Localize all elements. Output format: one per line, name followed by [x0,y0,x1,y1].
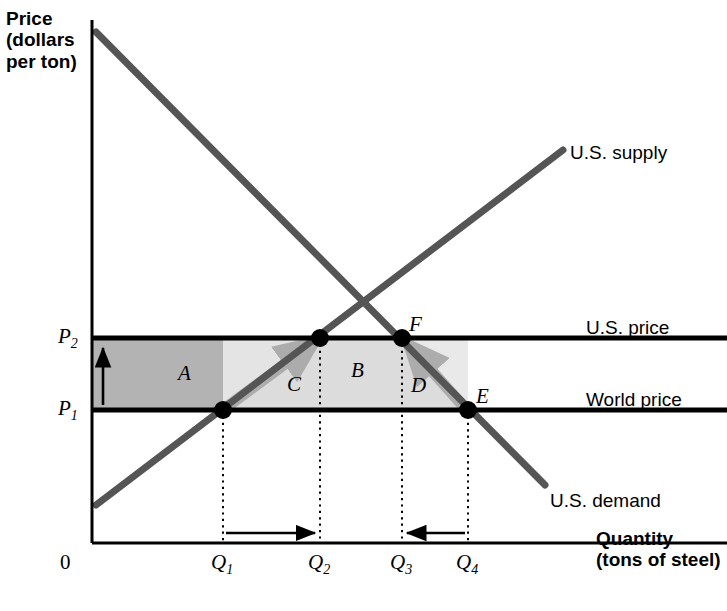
tariff-diagram: Price (dollars per ton) Quantity (tons o… [0,0,727,611]
origin-label: 0 [60,551,71,575]
price-label-p1-sub: 1 [71,408,78,423]
price-label-p1-text: P [58,396,71,420]
quantity-label-q4-sub: 4 [471,562,478,577]
quantity-label-q2-sub: 2 [323,562,330,577]
point-e-dot [459,401,477,419]
us-demand-curve [96,32,545,485]
us-demand-curve-label: U.S. demand [550,490,661,511]
x-axis-title-line1: Quantity [596,528,721,549]
point-label-f: F [409,313,422,337]
quantity-label-q3-sub: 3 [405,562,412,577]
y-axis-title-line3: per ton) [6,51,77,72]
region-a-fill [92,338,223,410]
point-q1-p1-dot [214,401,232,419]
price-label-p2: P2 [58,325,78,352]
quantity-label-q1-sub: 1 [226,562,233,577]
quantity-label-q1-text: Q [211,550,226,574]
us-supply-curve-label: U.S. supply [570,142,667,163]
us-supply-curve [96,150,563,505]
quantity-label-q3: Q3 [390,551,412,578]
us-price-line-label: U.S. price [586,317,669,338]
region-label-d: D [411,374,426,398]
quantity-label-q4: Q4 [456,551,478,578]
point-label-e: E [476,385,489,409]
point-q2-p2-dot [311,329,329,347]
price-label-p2-text: P [58,324,71,348]
price-label-p1: P1 [58,397,78,424]
quantity-label-q1: Q1 [211,551,233,578]
region-label-b: B [351,359,364,383]
price-label-p2-sub: 2 [71,336,78,351]
quantity-label-q2-text: Q [308,550,323,574]
y-axis-title-line2: (dollars [6,29,77,50]
y-axis-title: Price (dollars per ton) [6,8,77,72]
quantity-label-q2: Q2 [308,551,330,578]
region-label-a: A [178,362,191,386]
quantity-label-q4-text: Q [456,550,471,574]
y-axis-title-line1: Price [6,8,77,29]
world-price-line-label: World price [586,389,682,410]
x-axis-title: Quantity (tons of steel) [596,528,721,571]
quantity-label-q3-text: Q [390,550,405,574]
diagram-canvas [0,0,727,611]
region-label-c: C [287,373,301,397]
x-axis-title-line2: (tons of steel) [596,549,721,570]
